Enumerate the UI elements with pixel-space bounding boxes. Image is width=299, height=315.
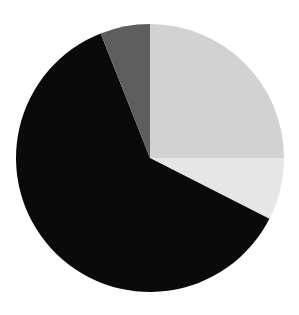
pie-slice-1[interactable]: [150, 24, 284, 158]
pie-chart-figure: [0, 0, 299, 315]
pie-chart-canvas: [0, 0, 299, 315]
pie-slice-group: [16, 24, 284, 292]
